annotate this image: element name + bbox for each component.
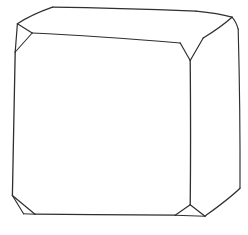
front-face-fill — [12, 33, 190, 215]
truncated-cube-drawing — [0, 0, 248, 235]
figure-canvas: Truncated cube line drawing Hand-drawn w… — [0, 0, 248, 235]
